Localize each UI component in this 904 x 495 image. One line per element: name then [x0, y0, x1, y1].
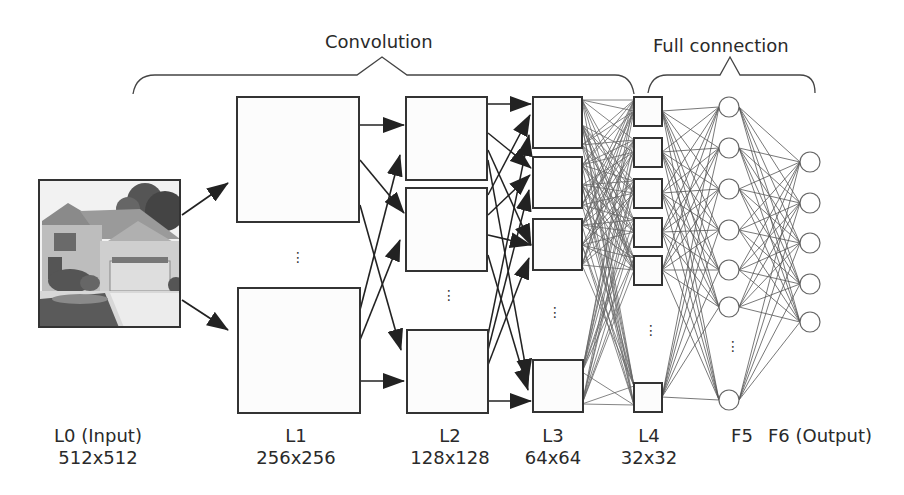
l1-ellipsis: ⋮ — [291, 249, 305, 265]
f5-ellipsis: ⋮ — [726, 338, 740, 354]
layer-size: 256x256 — [241, 447, 351, 469]
l1-feature-map — [238, 288, 360, 413]
l3-feature-map — [533, 360, 583, 412]
layer-l4-maps — [634, 97, 662, 412]
layer-name: L3 — [508, 425, 598, 447]
l3-to-l4-connections — [582, 100, 634, 405]
l2-to-l3-arrows — [488, 104, 531, 401]
l3-feature-map — [533, 219, 582, 270]
layer-size: 512x512 — [43, 447, 153, 469]
f5-neuron — [719, 390, 739, 410]
f6-output-neuron — [800, 312, 820, 332]
f5-neuron — [719, 297, 739, 317]
l2-feature-map — [407, 330, 488, 413]
full-connection-brace — [648, 57, 815, 93]
layer-size: 64x64 — [508, 447, 598, 469]
layer-l2-maps — [406, 97, 488, 413]
f6-output-neuron — [800, 152, 820, 172]
l4-feature-map — [634, 138, 662, 167]
layer-name: F5 — [722, 425, 762, 447]
l4-feature-map — [634, 256, 662, 285]
layer-label-l1: L1 256x256 — [241, 425, 351, 469]
layer-name: L2 — [395, 425, 505, 447]
f6-output-neuron — [800, 233, 820, 253]
layer-size: 128x128 — [395, 447, 505, 469]
l3-feature-map — [533, 97, 582, 148]
l2-feature-map — [406, 97, 487, 180]
layer-l3-maps — [533, 97, 583, 412]
layer-name: L0 (Input) — [43, 425, 153, 447]
layer-name: F6 (Output) — [765, 425, 875, 447]
layer-label-l2: L2 128x128 — [395, 425, 505, 469]
l4-ellipsis: ⋮ — [644, 322, 658, 338]
f5-neuron — [719, 260, 739, 280]
layer-name: L1 — [241, 425, 351, 447]
layer-label-l0: L0 (Input) 512x512 — [43, 425, 153, 469]
l4-feature-map — [634, 218, 662, 247]
f5-neuron — [719, 220, 739, 240]
full-connection-label: Full connection — [653, 35, 789, 56]
f5-to-f6-connections — [739, 107, 800, 400]
l1-feature-map — [237, 97, 359, 222]
l3-ellipsis: ⋮ — [548, 304, 562, 320]
layer-name: L4 — [606, 425, 692, 447]
f5-neuron — [719, 138, 739, 158]
f6-output-neuron — [800, 274, 820, 294]
f5-neuron — [719, 97, 739, 117]
layer-label-f6: F6 (Output) — [765, 425, 875, 447]
input-image-house — [38, 179, 181, 328]
f6-output-neuron — [800, 193, 820, 213]
l4-feature-map — [634, 383, 662, 412]
layer-label-l3: L3 64x64 — [508, 425, 598, 469]
l4-to-f5-connections — [662, 107, 719, 400]
convolution-label: Convolution — [325, 31, 433, 52]
layer-f6-nodes — [800, 152, 820, 332]
layer-label-l4: L4 32x32 — [606, 425, 692, 469]
layer-f5-nodes — [719, 97, 739, 410]
convolution-brace — [133, 57, 634, 94]
layer-size: 32x32 — [606, 447, 692, 469]
house-photo-icon — [40, 181, 181, 328]
input-to-l1-arrows — [182, 183, 228, 330]
l1-to-l2-arrows — [360, 125, 404, 381]
l2-feature-map — [406, 188, 487, 271]
layer-label-f5: F5 — [722, 425, 762, 447]
l3-feature-map — [533, 157, 582, 208]
l2-ellipsis: ⋮ — [442, 287, 456, 303]
l4-feature-map — [634, 179, 662, 208]
f5-neuron — [719, 179, 739, 199]
l4-feature-map — [634, 97, 662, 126]
